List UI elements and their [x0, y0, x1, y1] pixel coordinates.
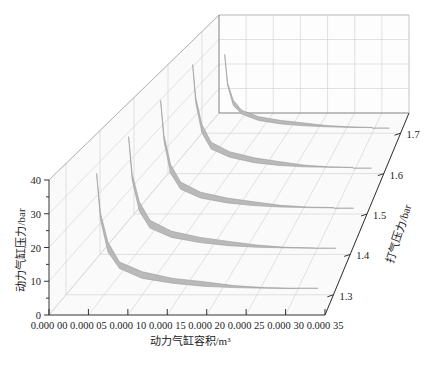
z-tick-label: 1.7: [407, 129, 420, 140]
x-tick-label: 0.000 35: [307, 320, 344, 331]
y-axis-title: 动力气缸压力/bar: [14, 208, 27, 291]
x-tick-label: 0.000 00: [31, 320, 68, 331]
y-tick-label: 30: [31, 209, 42, 220]
z-axis-title: 打气压力/bar: [382, 202, 413, 264]
x-tick-label: 0.000 05: [70, 320, 107, 331]
x-tick-label: 0.000 25: [228, 320, 265, 331]
x-tick-label: 0.000 20: [188, 320, 225, 331]
x-tick-label: 0.000 10: [109, 320, 146, 331]
y-tick-label: 20: [31, 243, 42, 254]
z-tick-label: 1.6: [390, 170, 403, 181]
x-tick-label: 0.000 15: [149, 320, 186, 331]
y-tick-label: 10: [31, 276, 42, 287]
y-tick-label: 40: [31, 175, 42, 186]
z-tick-label: 1.4: [356, 250, 370, 261]
x-axis-title: 动力气缸容积/m³: [150, 334, 232, 347]
x-tick-label: 0.000 30: [267, 320, 304, 331]
z-tick-label: 1.3: [339, 291, 352, 302]
z-tick-label: 1.5: [373, 210, 386, 221]
3d-chart: 0102030400.000 000.000 050.000 100.000 1…: [0, 0, 431, 365]
